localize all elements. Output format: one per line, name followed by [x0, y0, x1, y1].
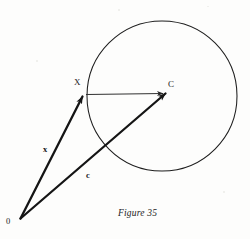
- vector-x-arrow: [21, 97, 83, 219]
- vector-label-c: c: [86, 171, 90, 180]
- point-label-c: C: [168, 80, 174, 89]
- figure-caption: Figure 35: [118, 209, 157, 219]
- vector-c-arrow: [21, 94, 166, 219]
- origin-label: 0: [6, 217, 10, 226]
- radius-segment-x-to-c: [86, 93, 163, 94]
- vector-label-x: x: [43, 145, 47, 154]
- vector-diagram: [0, 0, 250, 239]
- figure-page: X C 0 x c Figure 35: [0, 0, 250, 239]
- point-label-x: X: [74, 78, 81, 87]
